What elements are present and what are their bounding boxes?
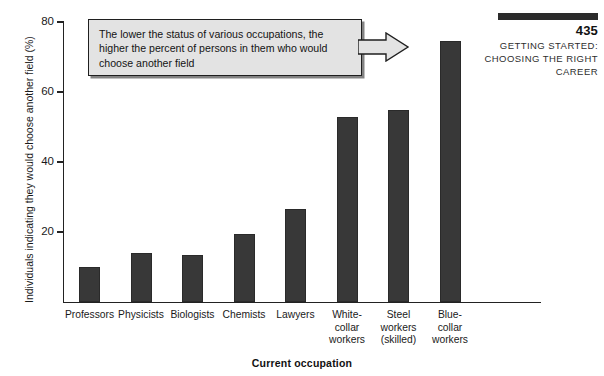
bar — [79, 267, 100, 302]
bar — [388, 110, 409, 303]
page-header: 435 GETTING STARTED: CHOOSING THE RIGHT … — [466, 13, 598, 78]
callout-text: The lower the status of various occupati… — [99, 27, 353, 70]
page-header-subtitle-line-2: CHOOSING THE RIGHT — [466, 52, 598, 65]
y-axis-tick — [57, 161, 64, 162]
x-axis-title: Current occupation — [0, 357, 604, 369]
bar — [337, 117, 358, 303]
x-axis-category-label-line: Blue- — [418, 309, 482, 322]
bar — [234, 234, 255, 302]
y-axis-tick — [57, 231, 64, 232]
bar — [131, 253, 152, 302]
page-header-subtitle: GETTING STARTED: CHOOSING THE RIGHT CARE… — [466, 39, 598, 78]
bar — [285, 209, 306, 302]
page-header-subtitle-line-1: GETTING STARTED: — [466, 39, 598, 52]
y-axis-title: Individuals indicating they would choose… — [24, 13, 35, 303]
callout-box: The lower the status of various occupati… — [88, 19, 362, 76]
x-axis-category-label-line: collar — [418, 322, 482, 335]
bar — [182, 255, 203, 302]
y-axis-tick — [57, 21, 64, 22]
x-axis-category-label-line: workers — [418, 334, 482, 347]
bar-chart-figure: 435 GETTING STARTED: CHOOSING THE RIGHT … — [0, 0, 604, 376]
x-axis-line — [63, 302, 541, 303]
page-number: 435 — [466, 24, 598, 38]
header-rule — [498, 13, 598, 20]
arrow-right-icon — [358, 32, 410, 62]
bar — [440, 41, 461, 302]
x-axis-category-label: Blue-collarworkers — [418, 309, 482, 347]
y-axis-tick — [57, 91, 64, 92]
page-header-subtitle-line-3: CAREER — [466, 65, 598, 78]
